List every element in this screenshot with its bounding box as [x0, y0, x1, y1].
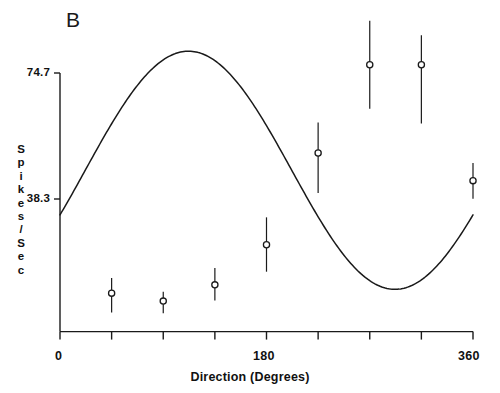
plot-area: [0, 0, 500, 393]
data-point: [315, 123, 321, 194]
data-marker: [160, 298, 166, 304]
data-marker: [263, 242, 269, 248]
data-marker: [367, 62, 373, 68]
figure-panel-b: B 74.7 38.3 S p i k e s / S e c 0 180 36…: [0, 0, 500, 393]
data-point: [212, 268, 218, 301]
data-marker: [470, 178, 476, 184]
data-point: [470, 163, 476, 199]
data-point: [418, 35, 424, 123]
data-point: [263, 217, 269, 271]
data-marker: [109, 290, 115, 296]
data-point: [367, 21, 373, 109]
data-marker: [418, 62, 424, 68]
data-marker: [315, 150, 321, 156]
data-point: [160, 292, 166, 313]
data-point: [109, 278, 115, 313]
data-points-layer: [109, 21, 477, 314]
axis-lines: [54, 73, 473, 340]
data-marker: [212, 282, 218, 288]
